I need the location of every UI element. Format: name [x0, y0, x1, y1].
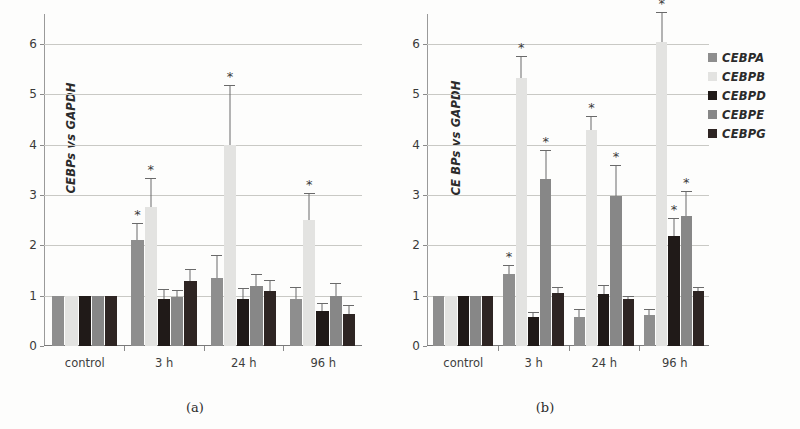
y-tick-mark [40, 195, 44, 196]
bar-slot [250, 14, 262, 346]
x-tick-mark [124, 346, 125, 351]
bar-slot [92, 14, 104, 346]
bar-cebpg-24h [623, 299, 634, 346]
x-tick-mark [569, 346, 570, 351]
x-axis-label-3h: 3 h [499, 356, 570, 370]
error-bar [673, 218, 674, 236]
bar-group: * [283, 14, 362, 346]
bar-cebpg-96h [693, 291, 704, 346]
error-bar [190, 269, 191, 282]
legend-item-cebpa: CEBPA [708, 48, 800, 67]
y-tick-mark [40, 245, 44, 246]
bar-cebpd-24h [598, 294, 609, 346]
significance-marker: * [306, 178, 313, 191]
y-tick-label: 3 [29, 188, 37, 202]
bar-slot: * [681, 14, 692, 346]
bar-cebpg-3h [184, 281, 196, 346]
error-bar [628, 296, 629, 300]
bar-slot [330, 14, 342, 346]
bar-cebpa-3h: * [503, 274, 514, 346]
bar-cebpd-3h [158, 299, 170, 346]
y-tick-label: 3 [412, 188, 420, 202]
bar-slot [79, 14, 91, 346]
bar-slot [693, 14, 704, 346]
y-tick-label: 2 [412, 238, 420, 252]
bar-slot [264, 14, 276, 346]
error-bar [591, 116, 592, 130]
bar-slot [445, 14, 456, 346]
bar-cebpa-96h [644, 315, 655, 346]
bar-cebpb-3h: * [145, 207, 157, 346]
bar-slot [552, 14, 563, 346]
panel-caption-a: (a) [0, 400, 390, 415]
bar-slot: * [516, 14, 527, 346]
error-bar [508, 265, 509, 274]
y-tick-label: 0 [412, 339, 420, 353]
x-axis-label-24h: 24 h [204, 356, 284, 370]
bar-cebpg-24h [264, 291, 276, 346]
y-tick-label: 1 [29, 289, 37, 303]
bar-group [45, 14, 124, 346]
y-tick-mark [423, 346, 427, 347]
error-bar [295, 287, 296, 299]
error-bar [322, 303, 323, 311]
bar-slot: * [131, 14, 143, 346]
bar-slot [458, 14, 469, 346]
error-bar [686, 191, 687, 216]
bar-cebpa-24h [574, 317, 585, 346]
y-tick-mark [423, 195, 427, 196]
legend-swatch-icon [708, 91, 717, 100]
bar-cebpd-control [458, 296, 469, 346]
error-bar [545, 150, 546, 178]
y-tick-label: 6 [412, 37, 420, 51]
error-bar [615, 165, 616, 196]
bar-groups-a: **** [45, 14, 362, 346]
legend-item-cebpe: CEBPE [708, 105, 800, 124]
y-tick-mark [423, 44, 427, 45]
plot-area-b: 0123456 ******** [427, 14, 709, 346]
legend-label: CEBPB [722, 70, 765, 84]
bar-cebpe-24h: * [610, 196, 621, 346]
bar-slot [343, 14, 355, 346]
bar-cebpg-control [482, 296, 493, 346]
bar-slot: * [540, 14, 551, 346]
bar-cebpd-24h [237, 299, 249, 346]
legend-label: CEBPG [722, 127, 766, 141]
bar-slot [211, 14, 223, 346]
y-tick-label: 4 [29, 138, 37, 152]
error-bar [521, 56, 522, 78]
bar-group: * [204, 14, 283, 346]
bar-cebpg-control [105, 296, 117, 346]
panel-caption-b: (b) [385, 400, 705, 415]
bar-cebpg-3h [552, 293, 563, 346]
bar-cebpd-3h [528, 317, 539, 346]
y-tick-label: 0 [29, 339, 37, 353]
bar-cebpe-3h: * [540, 179, 551, 347]
y-tick-label: 6 [29, 37, 37, 51]
bar-cebpe-3h [171, 297, 183, 346]
significance-marker: * [506, 250, 513, 263]
bar-slot [623, 14, 634, 346]
bar-slot: * [303, 14, 315, 346]
bar-slot [290, 14, 302, 346]
bar-slot [528, 14, 539, 346]
y-tick-label: 1 [412, 289, 420, 303]
y-tick-label: 2 [29, 238, 37, 252]
legend-item-cebpg: CEBPG [708, 124, 800, 143]
error-bar [150, 178, 151, 207]
bar-slot [433, 14, 444, 346]
x-axis-label-3h: 3 h [125, 356, 205, 370]
bar-slot [316, 14, 328, 346]
error-bar [603, 285, 604, 294]
bar-cebpb-24h: * [224, 145, 236, 346]
significance-marker: * [671, 203, 678, 216]
bar-cebpd-96h: * [668, 236, 679, 346]
x-axis-labels-a: control3 h24 h96 h [45, 356, 363, 370]
y-tick-label: 5 [29, 87, 37, 101]
legend-swatch-icon [708, 129, 717, 138]
bar-cebpd-control [79, 296, 91, 346]
error-bar [698, 287, 699, 292]
bar-slot: * [145, 14, 157, 346]
error-bar [229, 85, 230, 145]
error-bar [216, 255, 217, 278]
